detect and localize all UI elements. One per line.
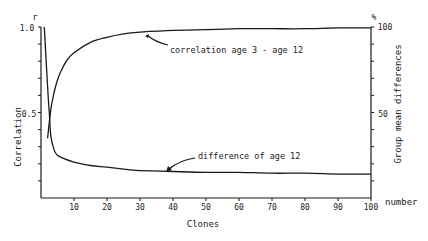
x-unit-label: number [385, 197, 418, 207]
line-chart: 102030405060708090100 1.0 0.5 100 50 r %… [0, 0, 428, 241]
x-tick-label: 90 [333, 203, 343, 212]
y-left-label: Correlation [13, 107, 23, 167]
x-tick-label: 10 [69, 203, 79, 212]
x-tick-labels: 102030405060708090100 [69, 203, 378, 212]
x-tick-label: 80 [300, 203, 310, 212]
x-tick-label: 100 [364, 203, 379, 212]
right-axis-unit: % [372, 13, 377, 22]
y-left-tick-0-5: 0.5 [22, 110, 37, 119]
y-right-tick-50: 50 [378, 110, 388, 119]
arrow-head-icon [145, 34, 149, 38]
x-tick-label: 50 [201, 203, 211, 212]
y-right-tick-100: 100 [378, 23, 393, 32]
annotation-correlation: correlation age 3 - age 12 [170, 45, 303, 55]
x-tick-label: 70 [267, 203, 277, 212]
x-tick-label: 20 [102, 203, 112, 212]
x-label: Clones [187, 219, 220, 229]
x-tick-label: 60 [234, 203, 244, 212]
x-tick-label: 30 [135, 203, 145, 212]
left-axis-unit: r [32, 12, 38, 22]
annotation-arrow-correlation [147, 35, 168, 45]
annotation-arrow-difference [169, 158, 195, 169]
annotation-difference: difference of age 12 [198, 151, 300, 161]
y-left-tick-1-0: 1.0 [20, 24, 35, 33]
y-right-label: Group mean differences [393, 44, 403, 163]
x-tick-label: 40 [168, 203, 178, 212]
